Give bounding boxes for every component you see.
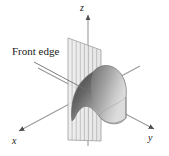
front-edge-label: Front edge: [12, 45, 59, 57]
axis-label-z: z: [80, 2, 84, 13]
axis-label-x: x: [12, 135, 16, 146]
diagram-canvas: [0, 0, 169, 156]
figure-3d-surface-front-edge: x y z Front edge: [0, 0, 169, 156]
axis-label-y: y: [148, 132, 152, 143]
